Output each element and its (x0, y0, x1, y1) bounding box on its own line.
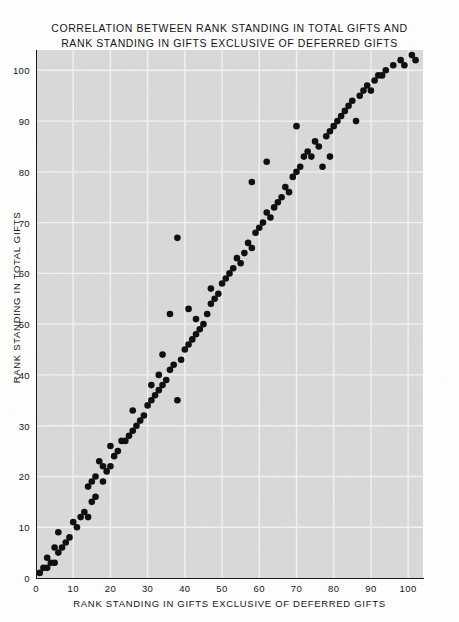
y-tick-label: 0 (2, 573, 30, 584)
x-tick-label: 20 (105, 583, 116, 594)
y-axis-line (36, 50, 37, 579)
data-point (107, 463, 114, 470)
data-point (349, 97, 356, 104)
plot-canvas (36, 50, 423, 578)
data-point (215, 290, 222, 297)
data-point (129, 407, 136, 414)
data-point (401, 62, 408, 69)
x-tick-label: 70 (291, 583, 302, 594)
data-point (237, 260, 244, 267)
data-point (51, 544, 58, 551)
data-point (286, 189, 293, 196)
data-points-group (36, 52, 418, 576)
x-tick-label: 80 (328, 583, 339, 594)
data-point (85, 514, 92, 521)
data-point (92, 473, 99, 480)
data-point (174, 397, 181, 404)
data-point (263, 158, 270, 165)
data-point (178, 356, 185, 363)
data-point (92, 493, 99, 500)
data-point (200, 321, 207, 328)
data-point (208, 285, 215, 292)
x-tick-label: 30 (142, 583, 153, 594)
data-point (141, 412, 148, 419)
y-tick-label: 30 (2, 420, 30, 431)
data-point (55, 529, 62, 536)
data-point (390, 62, 397, 69)
data-point (159, 351, 166, 358)
x-tick-label: 100 (400, 583, 417, 594)
y-tick-label: 80 (2, 166, 30, 177)
data-point (185, 306, 192, 313)
data-point (241, 250, 248, 257)
data-point (260, 219, 267, 226)
data-point (170, 361, 177, 368)
data-point (107, 443, 114, 450)
x-tick-label: 0 (33, 583, 39, 594)
data-point (308, 153, 315, 160)
data-point (316, 143, 323, 150)
data-point (297, 163, 304, 170)
data-point (412, 57, 419, 64)
data-point (163, 377, 170, 384)
data-point (249, 245, 256, 252)
y-axis-title: RANK STANDING IN TOTAL GIFTS (11, 178, 22, 418)
data-point (249, 179, 256, 186)
data-point (353, 118, 360, 125)
data-point (204, 311, 211, 318)
data-point (174, 235, 181, 242)
x-tick-label: 40 (179, 583, 190, 594)
x-axis-title: RANK STANDING IN GIFTS EXCLUSIVE OF DEFE… (0, 598, 459, 609)
scatter-plot-figure: CORRELATION BETWEEN RANK STANDING IN TOT… (0, 0, 459, 622)
data-point (74, 524, 81, 531)
data-point (278, 194, 285, 201)
data-point (44, 554, 51, 561)
data-point (293, 123, 300, 130)
data-point (382, 67, 389, 74)
x-tick-label: 60 (254, 583, 265, 594)
data-point (115, 448, 122, 455)
data-point (267, 214, 274, 221)
data-point (327, 153, 334, 160)
data-point (193, 316, 200, 323)
data-point (319, 163, 326, 170)
y-tick-label: 10 (2, 522, 30, 533)
x-axis-line (36, 578, 424, 579)
data-point (100, 478, 107, 485)
y-tick-label: 100 (2, 65, 30, 76)
data-point (100, 463, 107, 470)
data-point (148, 382, 155, 389)
y-tick-label: 90 (2, 116, 30, 127)
data-point (66, 534, 73, 541)
data-point (155, 372, 162, 379)
plot-area (36, 50, 423, 578)
y-tick-label: 20 (2, 471, 30, 482)
data-point (51, 559, 58, 566)
x-tick-label: 90 (365, 583, 376, 594)
chart-title-line-2: RANK STANDING IN GIFTS EXCLUSIVE OF DEFE… (0, 36, 459, 51)
chart-title-line-1: CORRELATION BETWEEN RANK STANDING IN TOT… (51, 22, 408, 34)
x-tick-label: 50 (216, 583, 227, 594)
data-point (368, 87, 375, 94)
data-point (167, 311, 174, 318)
data-point (230, 265, 237, 272)
x-tick-label: 10 (68, 583, 79, 594)
